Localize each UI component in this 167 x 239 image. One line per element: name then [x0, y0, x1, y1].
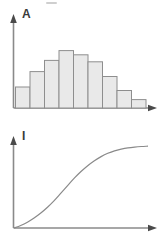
panel-i-y-axis-arrow-icon: [10, 136, 17, 145]
panel-i-ogive: I: [10, 129, 157, 231]
panel-a-bar-group: [16, 51, 147, 108]
histogram-bar: [132, 100, 147, 108]
panel-a-y-axis-arrow-icon: [10, 14, 17, 23]
panel-a-x-axis-arrow-icon: [148, 105, 157, 112]
histogram-bar: [88, 62, 103, 108]
histogram-bar: [103, 77, 118, 109]
histogram-bar: [30, 72, 45, 108]
panel-a-label: A: [22, 7, 31, 21]
histogram-bar: [45, 60, 60, 108]
panel-i-y-axis: [10, 136, 17, 228]
panel-i-label: I: [22, 129, 25, 143]
panel-a-histogram: A: [10, 7, 157, 111]
two-panel-distribution-figure: A I: [0, 0, 167, 239]
scan-smudge-mark: [46, 2, 57, 4]
panel-i-x-axis-arrow-icon: [148, 225, 157, 232]
histogram-bar: [59, 51, 74, 108]
panel-i-cumulative-curve: [14, 146, 148, 228]
histogram-bar: [16, 87, 31, 108]
histogram-bar: [117, 91, 132, 109]
panel-i-x-axis: [14, 225, 158, 232]
histogram-bar: [74, 55, 89, 108]
